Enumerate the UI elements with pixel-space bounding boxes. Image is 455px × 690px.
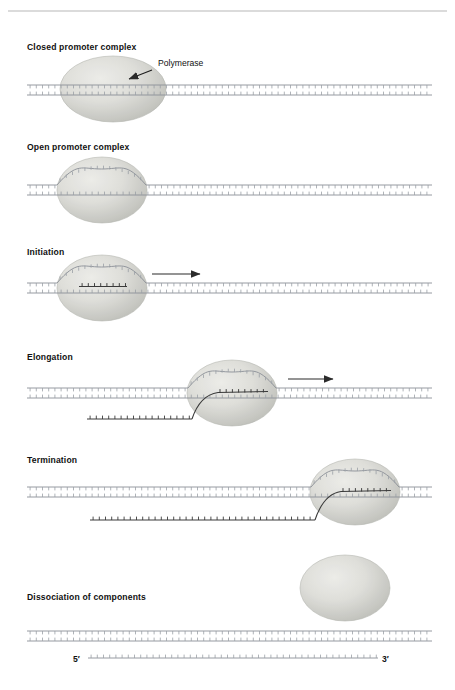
polymerase-ellipse-initiation [57,255,147,321]
three-prime-label: 3′ [382,654,389,664]
five-prime-label: 5′ [73,654,80,664]
stage-heading-elongation: Elongation [27,352,73,362]
stage-heading-dissociation-of-components: Dissociation of components [27,592,146,602]
stage-heading-termination: Termination [27,455,77,465]
polymerase-ellipse-termination [310,459,400,525]
polymerase-ellipse-elongation [187,360,277,426]
polymerase-label: Polymerase [158,58,204,68]
polymerase-ellipse-open-promoter-complex [57,157,147,223]
stage-heading-open-promoter-complex: Open promoter complex [27,142,130,152]
stage-heading-closed-promoter-complex: Closed promoter complex [27,42,137,52]
stage-heading-initiation: Initiation [27,247,64,257]
transcription-cycle-figure: Closed promoter complexOpen promoter com… [0,0,455,690]
polymerase-ellipse-closed-promoter-complex [60,56,166,122]
polymerase-ellipse-dissociation-of-components [300,555,390,621]
